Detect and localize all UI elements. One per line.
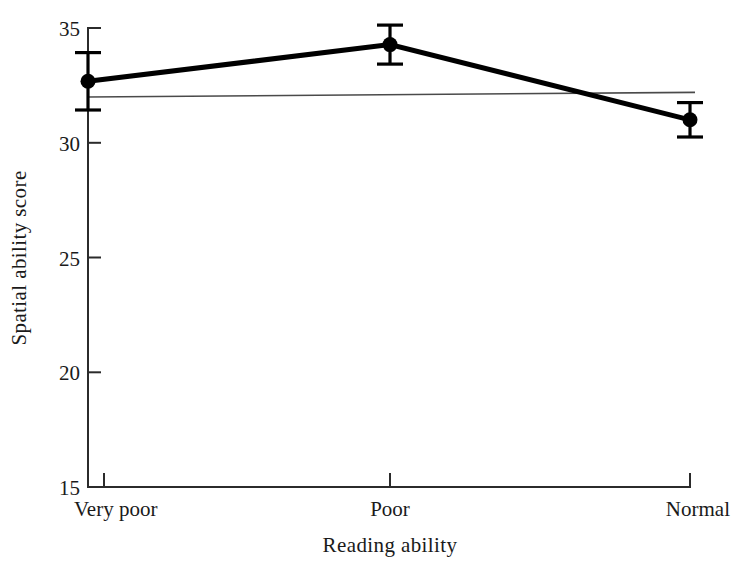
data-point-normal: [683, 112, 698, 127]
y-axis-title: Spatial ability score: [7, 170, 31, 345]
x-cat-label-very-poor: Very poor: [74, 497, 157, 521]
data-point-very-poor: [81, 74, 96, 89]
y-tick-label-35: 35: [59, 17, 80, 41]
x-axis-title: Reading ability: [323, 533, 458, 557]
chart-background: [0, 0, 734, 579]
y-tick-label-20: 20: [59, 361, 80, 385]
x-cat-label-poor: Poor: [370, 497, 410, 521]
y-tick-label-30: 30: [59, 132, 80, 156]
x-cat-label-normal: Normal: [666, 497, 730, 521]
data-point-poor: [383, 37, 398, 52]
spatial-ability-line-chart: 35 30 25 20 15 Very poor Poor Normal Rea…: [0, 0, 734, 579]
y-tick-label-25: 25: [59, 247, 80, 271]
